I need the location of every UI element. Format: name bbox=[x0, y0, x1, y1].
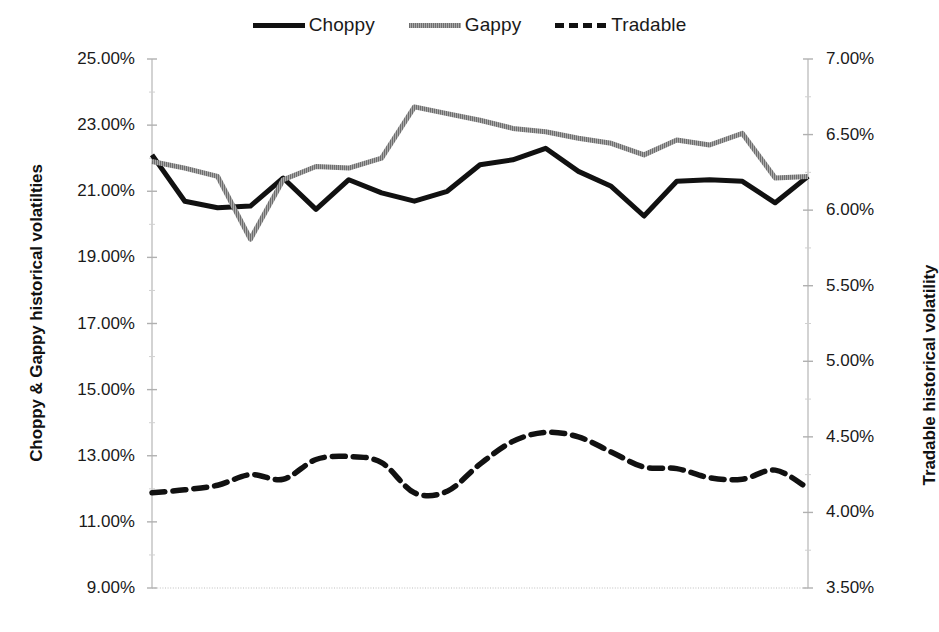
series-line-tradable bbox=[152, 432, 808, 496]
chart-container: Choppy Gappy Tradable Choppy & Gappy his… bbox=[0, 0, 939, 632]
plot-area bbox=[0, 0, 939, 632]
chart-svg bbox=[0, 0, 939, 632]
series-line-choppy bbox=[152, 148, 808, 216]
series-line-gappy bbox=[152, 107, 808, 239]
